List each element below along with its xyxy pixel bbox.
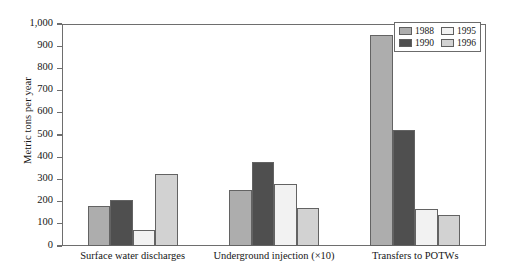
legend-item-1988: 1988 <box>399 26 434 36</box>
x-axis-category-labels: Surface water dischargesUnderground inje… <box>62 250 486 272</box>
bar-1990-3 <box>393 130 416 246</box>
y-axis-tick-label: 200 <box>37 194 53 205</box>
bar-group <box>88 24 178 246</box>
bar-1996-2 <box>297 208 320 246</box>
y-axis-ticks: 1,0009008007006005004003002001000 <box>0 0 62 278</box>
bars-layer <box>62 24 486 246</box>
y-axis-tick-label: 700 <box>37 83 53 94</box>
bar-1990-2 <box>252 162 275 246</box>
legend-swatch-icon <box>399 27 412 35</box>
legend-swatch-icon <box>399 39 412 47</box>
bar-1995-1 <box>133 230 156 246</box>
y-axis-tick-label: 400 <box>37 150 53 161</box>
bar-1996-3 <box>438 215 461 246</box>
bar-1995-2 <box>274 184 297 246</box>
legend-label: 1990 <box>415 38 434 48</box>
y-axis-tick-label: 100 <box>37 216 53 227</box>
legend-label: 1995 <box>457 26 476 36</box>
y-axis-tick-label: 900 <box>37 39 53 50</box>
y-axis-tick-label: 0 <box>48 239 53 250</box>
legend-label: 1988 <box>415 26 434 36</box>
bar-1988-1 <box>88 206 111 246</box>
y-axis-tick-label: 1,000 <box>29 17 53 28</box>
y-axis-tick-label: 800 <box>37 61 53 72</box>
bar-chart-figure: Metric tons per year 1,00090080070060050… <box>0 0 505 278</box>
legend-swatch-icon <box>441 39 454 47</box>
y-axis-tick-label: 300 <box>37 172 53 183</box>
bar-1990-1 <box>110 200 133 246</box>
legend-label: 1996 <box>457 38 476 48</box>
y-axis-tick-label: 600 <box>37 105 53 116</box>
legend-grid: 1988199519901996 <box>399 26 476 48</box>
x-axis-label: Transfers to POTWs <box>315 250 505 261</box>
bar-1996-1 <box>155 174 178 246</box>
bar-1995-3 <box>415 209 438 246</box>
legend-item-1995: 1995 <box>441 26 476 36</box>
legend-item-1996: 1996 <box>441 38 476 48</box>
bar-group <box>229 24 319 246</box>
y-axis-tick-label: 500 <box>37 128 53 139</box>
chart-legend: 1988199519901996 <box>394 22 481 52</box>
bar-group <box>370 24 460 246</box>
bar-1988-3 <box>370 35 393 246</box>
bar-1988-2 <box>229 190 252 246</box>
legend-swatch-icon <box>441 27 454 35</box>
legend-item-1990: 1990 <box>399 38 434 48</box>
